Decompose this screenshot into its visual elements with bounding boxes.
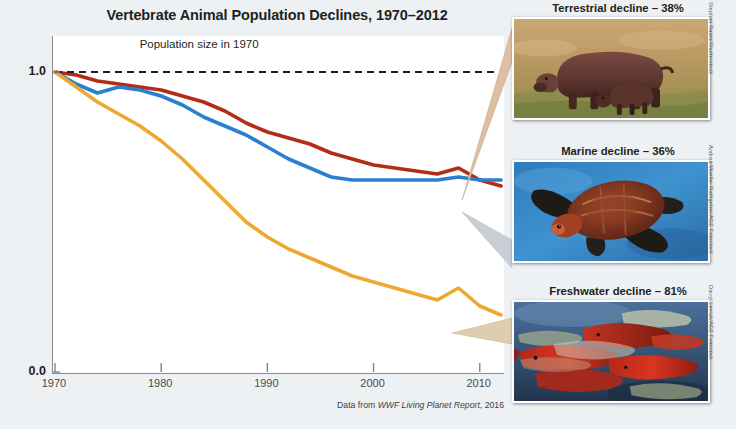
source-note: Data from WWF Living Planet Report, 2016: [250, 400, 504, 410]
x-tick-label-2010: 2010: [457, 377, 501, 389]
photo-credit-marine: Andrea Mueller-Rathgeber/AGE Fotostock: [708, 145, 714, 254]
x-tick-label-1970: 1970: [32, 377, 76, 389]
series-line-freshwater: [55, 72, 501, 315]
photo-caption-marine: Marine decline – 36%: [512, 145, 724, 157]
photo-terrestrial: [512, 17, 710, 120]
series-layer: [55, 72, 501, 315]
y-tick-marks: [53, 72, 60, 372]
photo-credit-terrestrial: Stephan Raats/Shutterstock: [708, 2, 714, 74]
reference-line-label: Population size in 1970: [140, 38, 259, 50]
photo-caption-terrestrial: Terrestrial decline – 38%: [512, 2, 724, 14]
plot-svg: [53, 36, 505, 374]
photo-marine: [512, 160, 710, 263]
source-title: WWF Living Planet Report: [378, 400, 480, 410]
photo-caption-freshwater: Freshwater decline – 81%: [512, 285, 724, 297]
photo-freshwater: [512, 300, 710, 403]
plot-area: [52, 36, 504, 374]
source-prefix: Data from: [337, 400, 378, 410]
photo-block-terrestrial: Terrestrial decline – 38%: [512, 2, 724, 120]
series-line-marine: [55, 72, 501, 180]
x-tick-label-1990: 1990: [244, 377, 288, 389]
x-tick-marks: [55, 363, 480, 372]
photo-credit-freshwater: Darryl Leniuk/AGE Fotostock: [708, 285, 714, 360]
y-tick-label-1: 1.0: [12, 64, 46, 78]
hippopotamus-icon: [514, 19, 708, 118]
sea-turtle-icon: [514, 162, 708, 261]
photo-block-freshwater: Freshwater decline – 81%: [512, 285, 724, 403]
source-suffix: , 2016: [480, 400, 504, 410]
x-tick-label-1980: 1980: [138, 377, 182, 389]
y-tick-label-0: 0.0: [12, 364, 46, 378]
figure-root: Vertebrate Animal Population Declines, 1…: [0, 0, 736, 429]
spawning-salmon-icon: [514, 302, 708, 401]
photo-block-marine: Marine decline – 36%: [512, 145, 724, 263]
x-tick-label-2000: 2000: [351, 377, 395, 389]
page-title: Vertebrate Animal Population Declines, 1…: [52, 7, 502, 23]
